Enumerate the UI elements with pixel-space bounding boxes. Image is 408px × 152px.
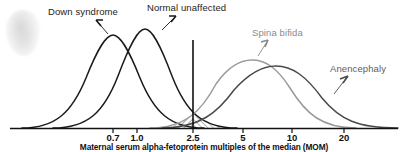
- curve-down-syndrome: [22, 35, 204, 128]
- x-tick-label-5: 20: [339, 132, 350, 143]
- figure-caption: Maternal serum alpha-fetoprotein multipl…: [80, 142, 328, 152]
- distribution-plot: [0, 0, 408, 152]
- curve-label-normal-unaffected: Normal unaffected: [147, 2, 226, 13]
- label-leader-lines: [96, 16, 348, 94]
- afp-screening-distribution-figure: Down syndrome Normal unaffected Spina bi…: [0, 0, 408, 152]
- curve-label-spina-bifida: Spina bifida: [252, 27, 303, 38]
- curve-label-down-syndrome: Down syndrome: [48, 6, 118, 17]
- curve-normal-unaffected: [53, 29, 237, 128]
- shaded-region-false-positive: [53, 29, 237, 128]
- curve-label-anencephaly: Anencephaly: [330, 63, 386, 74]
